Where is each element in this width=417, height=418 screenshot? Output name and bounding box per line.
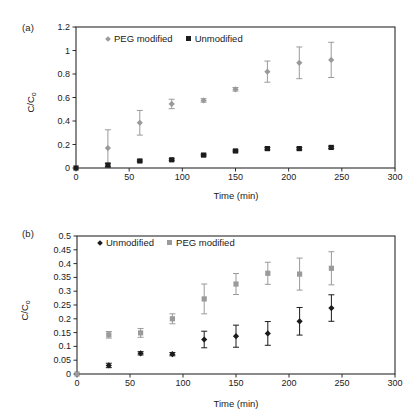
panel-b-x-tick: 0 [74, 378, 79, 388]
panel-a-x-axis-title: Time (min) [213, 190, 258, 201]
data-point [169, 351, 175, 357]
data-point [201, 152, 206, 157]
data-point [73, 165, 78, 170]
legend-label: Unmodified [106, 237, 154, 248]
panel-a-y-tick: 1.2 [28, 22, 70, 32]
data-point [169, 157, 174, 162]
legend-diamond-icon [105, 36, 111, 42]
panel-b-y-tick: 0 [28, 369, 71, 379]
data-point [233, 333, 239, 339]
legend-entry: PEG modified [106, 33, 173, 44]
legend-label: PEG modified [176, 237, 235, 248]
panel-a-y-tick: 0.2 [28, 140, 70, 150]
data-point [297, 271, 302, 276]
legend-entry: Unmodified [98, 237, 154, 248]
panel-b-x-tick: 200 [281, 378, 296, 388]
panel-a-y-tick: 1 [28, 46, 70, 56]
panel-a-y-tick: 0.6 [28, 93, 70, 103]
panel-a-x-tick: 150 [228, 172, 243, 182]
panel-b-x-tick: 250 [334, 378, 349, 388]
data-point [138, 350, 144, 356]
data-point [329, 145, 334, 150]
data-point [328, 57, 334, 63]
data-point [265, 146, 270, 151]
data-point [170, 316, 175, 321]
panel-a-legend: PEG modifiedUnmodified [106, 33, 243, 44]
data-point [328, 305, 334, 311]
data-point [265, 271, 270, 276]
panel-a-x-tick: 50 [124, 172, 134, 182]
data-point [329, 266, 334, 271]
panel-b-x-tick: 50 [125, 378, 135, 388]
panel-b-x-tick: 100 [175, 378, 190, 388]
data-point [201, 336, 207, 342]
legend-square-icon [167, 240, 172, 245]
panel-b-y-tick: 0.2 [28, 314, 71, 324]
panel-b-x-axis-title: Time (min) [213, 398, 258, 409]
panel-b-x-tick: 150 [228, 378, 243, 388]
data-point [297, 318, 303, 324]
data-point [202, 296, 207, 301]
panel-a-x-tick: 250 [334, 172, 349, 182]
data-point [297, 146, 302, 151]
legend-entry: PEG modified [167, 237, 235, 248]
data-point [169, 101, 175, 107]
panel-a-x-tick: 200 [281, 172, 296, 182]
legend-label: Unmodified [195, 33, 243, 44]
data-point [105, 145, 111, 151]
data-point [74, 371, 79, 376]
panel-b-y-tick: 0.05 [28, 355, 71, 365]
panel-b-legend: UnmodifiedPEG modified [98, 237, 235, 248]
panel-a-x-tick: 0 [73, 172, 78, 182]
data-point [233, 281, 238, 286]
data-point [105, 162, 110, 167]
data-point [296, 60, 302, 66]
panel-b-y-tick: 0.1 [28, 341, 71, 351]
panel-b-y-tick: 0.35 [28, 272, 71, 282]
panel-a-y-tick: 0.4 [28, 116, 70, 126]
panel-b-y-tick: 0.5 [28, 231, 71, 241]
panel-a-y-tick: 0.8 [28, 69, 70, 79]
panel-b-y-tick: 0.4 [28, 259, 71, 269]
panel-a-x-tick: 100 [175, 172, 190, 182]
legend-label: PEG modified [114, 33, 173, 44]
panel-b-x-tick: 300 [387, 378, 402, 388]
data-point [137, 158, 142, 163]
data-point [264, 69, 270, 75]
panel-b-y-tick: 0.25 [28, 300, 71, 310]
data-point [137, 120, 143, 126]
data-point [233, 148, 238, 153]
panel-b-y-tick: 0.15 [28, 328, 71, 338]
data-point [265, 330, 271, 336]
panel-b-y-tick: 0.45 [28, 245, 71, 255]
panel-a-y-tick: 0 [28, 163, 70, 173]
panel-a-x-tick: 300 [387, 172, 402, 182]
legend-entry: Unmodified [186, 33, 243, 44]
chart-panel-b: (b) C/Co 00.050.10.150.20.250.30.350.40.… [0, 208, 417, 418]
data-point [106, 332, 111, 337]
legend-diamond-icon [97, 240, 103, 246]
chart-panel-a: (a) C/Co 00.20.40.60.811.2 0501001502002… [0, 0, 417, 208]
panel-b-y-tick: 0.3 [28, 286, 71, 296]
data-point [138, 330, 143, 335]
legend-square-icon [186, 36, 191, 41]
figure-container: (a) C/Co 00.20.40.60.811.2 0501001502002… [0, 0, 417, 418]
